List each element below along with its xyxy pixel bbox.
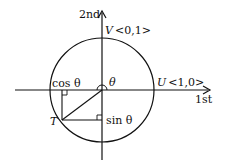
point-V-label: V<0,1> (105, 24, 151, 37)
radius-to-T (62, 90, 102, 120)
vertical-axis-label: 2nd (79, 8, 100, 21)
sin-theta-label: sin θ (106, 114, 133, 127)
right-angle-marker-sin (97, 115, 102, 120)
point-U-label: U<1,0> (157, 76, 204, 89)
theta-label: θ (109, 76, 116, 89)
unit-circle-diagram: 2nd 1st V<0,1> U<1,0> T θ cos θ sin θ (0, 0, 238, 168)
horizontal-axis-label: 1st (195, 93, 213, 106)
cos-theta-label: cos θ (52, 77, 81, 90)
right-angle-marker-cos (62, 90, 67, 95)
